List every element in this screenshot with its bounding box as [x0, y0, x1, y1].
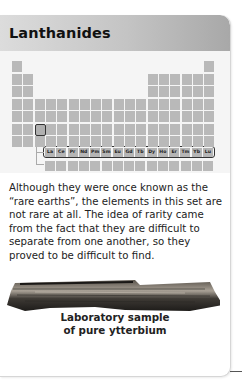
element-cell — [12, 86, 22, 97]
lanthanide-element-gd: Gd — [124, 148, 134, 157]
element-cell — [102, 99, 112, 110]
element-cell — [182, 111, 192, 122]
actinide-cell — [192, 161, 202, 171]
element-cell — [12, 111, 22, 122]
element-cell — [91, 136, 101, 147]
actinide-cell — [181, 161, 191, 171]
element-cell — [12, 99, 22, 110]
element-cell — [23, 86, 33, 97]
element-cell — [182, 99, 192, 110]
element-cell — [193, 124, 203, 135]
element-cell — [170, 136, 180, 147]
element-cell — [114, 124, 124, 135]
sample-image-area: Laboratory sample of pure ytterbium — [0, 269, 230, 329]
element-cell — [102, 136, 112, 147]
actinide-cell — [169, 161, 179, 171]
element-cell — [46, 111, 56, 122]
element-cell — [91, 124, 101, 135]
element-cell — [204, 61, 214, 72]
actinide-cell — [45, 161, 55, 171]
lanthanides-card: Lanthanides LaCePrNdPmSmEuGdTbDyHoErTmYb… — [0, 15, 231, 377]
element-cell — [80, 124, 90, 135]
element-cell — [102, 111, 112, 122]
element-cell — [12, 136, 22, 147]
lanthanide-element-tm: Tm — [180, 148, 190, 157]
element-cell — [91, 99, 101, 110]
lanthanide-element-lu: Lu — [203, 148, 213, 157]
element-cell — [170, 86, 180, 97]
card-title: Lanthanides — [9, 25, 111, 41]
actinide-connector-line — [36, 151, 44, 165]
element-cell — [159, 124, 169, 135]
element-cell — [46, 99, 56, 110]
element-cell — [170, 111, 180, 122]
element-cell — [57, 111, 67, 122]
element-cell — [182, 124, 192, 135]
element-cell — [170, 99, 180, 110]
element-cell — [35, 99, 45, 110]
lanthanide-element-sm: Sm — [101, 148, 111, 157]
element-cell — [46, 136, 56, 147]
lanthanide-element-er: Er — [169, 148, 179, 157]
actinide-cell — [56, 161, 66, 171]
element-cell — [182, 86, 192, 97]
element-cell — [69, 124, 79, 135]
element-cell — [12, 74, 22, 85]
element-cell — [193, 74, 203, 85]
element-cell — [114, 99, 124, 110]
description-text: Although they were once known as the “ra… — [0, 173, 224, 263]
lanthanide-element-la: La — [45, 148, 55, 157]
element-cell — [170, 74, 180, 85]
lanthanide-row-highlight: LaCePrNdPmSmEuGdTbDyHoErTmYbLu — [43, 146, 215, 158]
element-cell — [159, 136, 169, 147]
element-cell — [193, 86, 203, 97]
actinide-cell — [158, 161, 168, 171]
element-cell — [12, 61, 22, 72]
element-cell — [23, 136, 33, 147]
lanthanum-placeholder-cell — [35, 124, 46, 136]
lanthanide-element-eu: Eu — [113, 148, 123, 157]
element-cell — [114, 111, 124, 122]
element-cell — [69, 111, 79, 122]
element-cell — [159, 111, 169, 122]
element-cell — [125, 111, 135, 122]
actinide-cell — [124, 161, 134, 171]
element-cell — [204, 74, 214, 85]
element-cell — [23, 74, 33, 85]
element-cell — [114, 136, 124, 147]
element-cell — [193, 111, 203, 122]
element-cell — [35, 136, 45, 147]
actinide-cell — [147, 161, 157, 171]
element-cell — [136, 124, 146, 135]
element-cell — [69, 136, 79, 147]
ytterbium-sample-image — [5, 277, 220, 313]
element-cell — [204, 124, 214, 135]
element-cell — [57, 136, 67, 147]
element-cell — [148, 136, 158, 147]
element-cell — [80, 99, 90, 110]
element-cell — [170, 124, 180, 135]
element-cell — [136, 99, 146, 110]
element-cell — [204, 99, 214, 110]
lanthanide-element-ce: Ce — [56, 148, 66, 157]
element-cell — [69, 99, 79, 110]
actinide-cell — [203, 161, 213, 171]
element-cell — [193, 136, 203, 147]
element-cell — [80, 111, 90, 122]
lanthanide-element-dy: Dy — [147, 148, 157, 157]
image-caption-line2: of pure ytterbium — [0, 324, 230, 338]
actinide-cell — [113, 161, 123, 171]
element-cell — [148, 74, 158, 85]
element-cell — [125, 136, 135, 147]
lanthanide-element-ho: Ho — [158, 148, 168, 157]
card-header: Lanthanides — [0, 15, 230, 51]
element-cell — [136, 111, 146, 122]
element-cell — [148, 111, 158, 122]
actinide-cell — [68, 161, 78, 171]
actinide-cell — [102, 161, 112, 171]
element-cell — [23, 111, 33, 122]
element-cell — [35, 111, 45, 122]
element-cell — [204, 111, 214, 122]
element-cell — [148, 124, 158, 135]
element-cell — [125, 99, 135, 110]
